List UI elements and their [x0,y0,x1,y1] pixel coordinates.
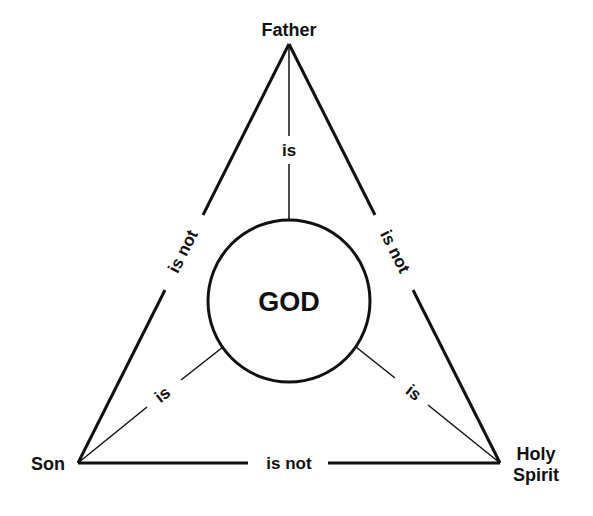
spirit-god-relation-label: is [402,381,425,405]
holy-spirit-label-line1: Holy [516,444,555,464]
spoke-spirit-god-upper [356,347,395,378]
son-spirit-relation-label: is not [266,454,312,473]
spoke-son-god-upper [181,347,223,380]
father-spirit-relation-label: is not [376,227,413,276]
edge-father-spirit-upper [289,44,375,215]
son-god-relation-label: is [151,383,174,407]
god-label: GOD [258,287,320,317]
edge-father-spirit-lower [413,290,500,463]
father-god-relation-label: is [282,141,296,160]
son-label: Son [31,454,65,474]
father-label: Father [261,20,316,40]
father-son-relation-label: is not [164,227,201,276]
holy-spirit-label-line2: Spirit [513,465,559,485]
spoke-spirit-god-lower [428,405,500,463]
edge-father-son-upper [203,44,289,215]
spoke-son-god-lower [78,407,147,463]
trinity-diagram: GOD Father Son Holy Spirit is not is not… [0,0,593,516]
edge-father-son-lower [78,290,165,463]
